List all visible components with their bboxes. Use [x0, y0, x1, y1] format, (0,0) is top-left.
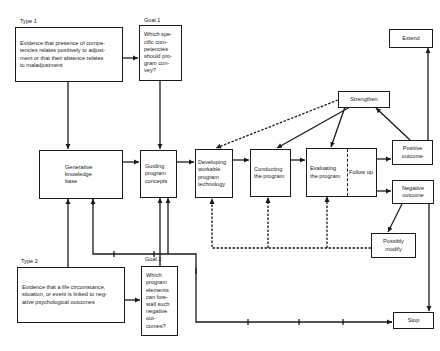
goal-1-text: Which spe- cific com- petencies should p…: [144, 31, 172, 74]
extend-text: Extend: [402, 35, 419, 42]
positive-text: Positive outcome: [402, 145, 423, 159]
generative-text: Generative knowledge base: [65, 164, 92, 186]
type-1-text: Evidence that presence of compe- tencies…: [20, 40, 105, 69]
type-2-text: Evidence that a life circumstance, situa…: [22, 284, 107, 306]
evaluating-text: Evaluating the program: [310, 165, 340, 179]
type-2-label: Type 2: [21, 258, 38, 265]
strengthen-box: Strengthen: [338, 91, 390, 108]
goal-2-text: Which program elements can fore- stall s…: [146, 272, 169, 330]
goal-1-box: Which spe- cific com- petencies should p…: [139, 25, 182, 81]
developing-technology-box: Developing workable program technology: [195, 149, 233, 198]
positive-outcome-box: Positive outcome: [392, 140, 433, 165]
conducting-program-box: Conducting the program: [250, 149, 291, 197]
goal-2-box: Which program elements can fore- stall s…: [141, 266, 178, 336]
dashed-divider: [347, 149, 348, 196]
goal-1-label: Goal 1: [144, 17, 160, 24]
stop-text: Stop: [408, 317, 420, 324]
follow-up-text: Follow up: [349, 169, 373, 176]
developing-text: Developing workable program technology: [198, 159, 226, 188]
guiding-text: Guiding program concepts: [145, 163, 167, 185]
type-1-label: Type 1: [20, 18, 37, 25]
possibly-modify-box: Possibly modify: [371, 233, 416, 258]
negative-text: Negative outcome: [402, 185, 424, 199]
strengthen-text: Strengthen: [350, 96, 377, 103]
negative-outcome-box: Negative outcome: [392, 180, 434, 204]
goal-2-label: Goal 2: [145, 256, 161, 263]
extend-box: Extend: [389, 29, 433, 48]
type-2-evidence-box: Evidence that a life circumstance, situa…: [17, 267, 125, 323]
evaluating-follow-up-box: Evaluating the program Follow up: [306, 148, 377, 197]
guiding-program-concepts-box: Guiding program concepts: [140, 150, 177, 198]
possibly-modify-text: Possibly modify: [383, 238, 404, 252]
generative-knowledge-base-box: Generative knowledge base: [39, 150, 123, 199]
type-1-evidence-box: Evidence that presence of compe- tencies…: [15, 27, 123, 82]
conducting-text: Conducting the program: [254, 166, 284, 180]
stop-box: Stop: [393, 312, 434, 329]
